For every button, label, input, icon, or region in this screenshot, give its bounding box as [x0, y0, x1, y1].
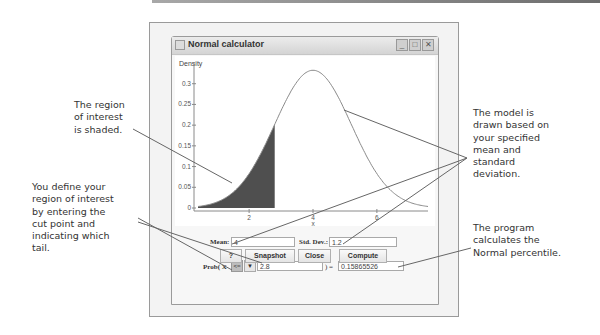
y-tick-label: 0.1	[182, 163, 191, 170]
density-curve	[198, 70, 428, 206]
std-dev-label: Std. Dev.:	[299, 238, 328, 246]
y-tick-label: 0.05	[178, 183, 191, 190]
mean-input[interactable]: 4	[231, 237, 295, 247]
snapshot-button[interactable]: Snapshot	[245, 249, 295, 263]
x-axis-label: x	[311, 220, 315, 227]
x-tick-label: 4	[311, 214, 315, 221]
annotation-line: mean and	[473, 144, 549, 156]
annotation-line: your specified	[473, 132, 549, 144]
y-tick-label: 0.25	[178, 100, 191, 107]
y-tick-label: 0.2	[182, 121, 191, 128]
annotation-line: is shaded.	[74, 124, 125, 136]
annotation-model: The model is drawn based on your specifi…	[473, 107, 549, 181]
annotation-shaded: The region of interest is shaded.	[74, 99, 125, 136]
annotation-line: cut point and	[32, 218, 114, 230]
annotation-line: Normal percentile.	[473, 247, 561, 259]
y-tick-label: 0.15	[178, 142, 191, 149]
annotation-line: region of interest	[32, 193, 114, 205]
annotation-line: drawn based on	[473, 119, 549, 131]
annotation-line: tail.	[32, 242, 114, 254]
equals-label: ) =	[325, 263, 333, 271]
close-button[interactable]: Close	[298, 249, 331, 263]
std-dev-input[interactable]: 1.2	[329, 237, 397, 247]
help-button[interactable]: ?	[220, 249, 242, 263]
annotation-line: of interest	[74, 111, 125, 123]
annotation-line: indicating which	[32, 230, 114, 242]
annotation-line: deviation.	[473, 168, 549, 180]
annotation-line: The model is	[473, 107, 549, 119]
annotation-line: by entering the	[32, 206, 114, 218]
annotation-line: The region	[74, 99, 125, 111]
x-tick-label: 2	[247, 214, 251, 221]
annotation-program: The program calculates the Normal percen…	[473, 222, 561, 259]
annotation-define: You define your region of interest by en…	[32, 181, 114, 255]
x-tick-label: 6	[375, 214, 379, 221]
y-axis-label: Density	[179, 60, 203, 68]
y-tick-label: 0	[187, 204, 191, 211]
prob-label: Prob( X	[203, 263, 227, 271]
annotation-line: The program	[473, 222, 561, 234]
y-tick-label: 0.3	[182, 80, 191, 87]
annotation-line: calculates the	[473, 234, 561, 246]
annotation-line: standard	[473, 156, 549, 168]
compute-button[interactable]: Compute	[339, 249, 387, 263]
shaded-region	[198, 125, 275, 209]
mean-label: Mean:	[210, 238, 229, 246]
annotation-line: You define your	[32, 181, 114, 193]
